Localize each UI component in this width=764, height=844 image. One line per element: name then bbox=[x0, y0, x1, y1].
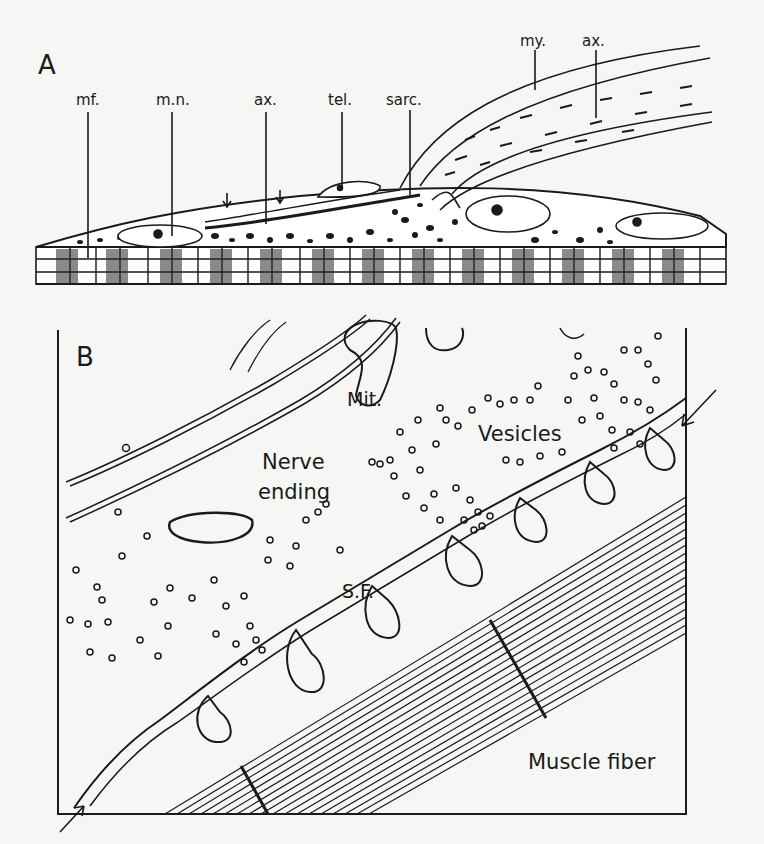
diagram-drawing bbox=[0, 0, 764, 844]
panel-a-letter: A bbox=[38, 52, 56, 78]
label-mf: mf. bbox=[76, 93, 100, 108]
label-my: my. bbox=[520, 34, 546, 49]
label-vesicles: Vesicles bbox=[478, 424, 562, 445]
label-ending: ending bbox=[258, 482, 330, 503]
label-tel: tel. bbox=[328, 93, 352, 108]
panel-b-letter: B bbox=[76, 344, 94, 370]
label-ax-myelinated: ax. bbox=[582, 34, 605, 49]
label-mit: Mit. bbox=[347, 390, 382, 409]
label-ax-terminal: ax. bbox=[254, 93, 277, 108]
label-muscle-fiber: Muscle fiber bbox=[528, 752, 655, 773]
label-sf: S.F. bbox=[342, 582, 374, 601]
label-mn: m.n. bbox=[156, 93, 190, 108]
label-nerve: Nerve bbox=[262, 452, 325, 473]
label-sarc: sarc. bbox=[386, 93, 422, 108]
panel-a-drawing bbox=[36, 46, 726, 284]
